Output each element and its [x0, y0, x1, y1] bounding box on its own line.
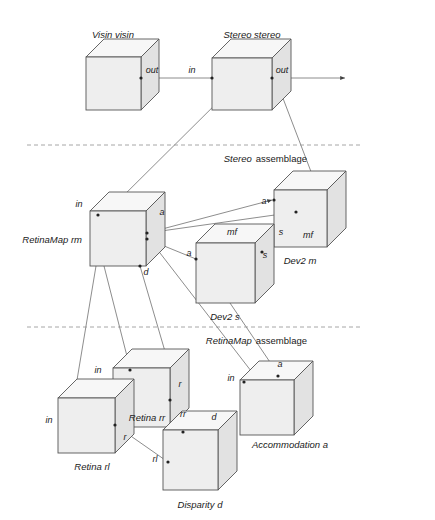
diagram-canvas: StereoassemblageRetinaMapassemblage Visi… — [0, 0, 435, 520]
port-connector-dot — [166, 460, 169, 463]
port-label-stereo-out: out — [276, 65, 289, 75]
port-connector-dot — [294, 210, 297, 213]
port-connector-dot — [139, 76, 142, 79]
port-label-retinarr-in: in — [94, 365, 101, 375]
port-label-dev2s-a: a — [186, 248, 191, 258]
cube-front-face — [196, 243, 255, 303]
port-connector-dot — [194, 257, 197, 260]
port-label-retinamap-in: in — [75, 199, 82, 209]
port-label-dev2s-s: s — [263, 250, 268, 260]
assemblage-label-plain: assemblage — [256, 335, 307, 346]
connection-retinamap-to-retinarr — [104, 266, 130, 368]
port-label-dev2m-a: a — [261, 196, 266, 206]
cube-front-face — [240, 380, 294, 435]
cube-front-face — [274, 190, 327, 247]
cube-front-face — [212, 58, 272, 110]
diagram-svg: StereoassemblageRetinaMapassemblage Visi… — [0, 0, 435, 520]
assemblage-label-stereo-assemblage: Stereoassemblage — [224, 153, 307, 164]
assemblage-label-plain: assemblage — [256, 153, 307, 164]
port-connector-dot — [96, 213, 99, 216]
port-label-retinamap-d: d — [143, 267, 149, 277]
port-label-dev2s-mf: mf — [227, 227, 238, 237]
port-label-retinarl-in: in — [45, 415, 52, 425]
cube-front-face — [163, 430, 218, 490]
component-cube-disparity[interactable] — [163, 411, 237, 490]
component-label-dev2s: Dev2 s — [210, 311, 240, 322]
port-connector-dot — [145, 231, 148, 234]
port-label-retinamap-a: a — [159, 207, 164, 217]
cube-front-face — [58, 398, 115, 453]
cube-front-face — [86, 57, 141, 110]
port-connector-dot — [272, 198, 275, 201]
port-label-stereo-in: in — [188, 65, 195, 75]
port-connector-dot — [181, 430, 184, 433]
assemblage-label-retinamap-assemblage: RetinaMapassemblage — [206, 335, 307, 346]
component-label-retinarr: Retina rr — [129, 412, 166, 423]
port-connector-dot — [242, 380, 245, 383]
cube-front-face — [90, 211, 146, 266]
port-connector-dot — [276, 374, 279, 377]
component-label-retinarl: Retina rl — [74, 461, 110, 472]
port-label-retinarl-rl: rl — [153, 454, 159, 464]
port-label-dev2m-mf: mf — [303, 230, 314, 240]
component-cube-retinamap[interactable] — [90, 192, 165, 266]
port-connector-dot — [128, 368, 131, 371]
assemblage-label-italic: Stereo — [224, 153, 252, 164]
component-label-stereo: Stereo stereo — [223, 29, 280, 40]
assemblage-label-italic: RetinaMap — [206, 335, 252, 346]
port-label-visin-out: out — [146, 65, 159, 75]
port-label-accommodation-a: a — [277, 359, 282, 369]
port-connector-dot — [168, 398, 171, 401]
port-label-dev2m-s: s — [279, 227, 284, 237]
port-connector-dot — [138, 264, 141, 267]
component-label-visin: Visin visin — [92, 29, 134, 40]
component-label-dev2m: Dev2 m — [284, 255, 317, 266]
component-cube-accommodation[interactable] — [240, 361, 313, 435]
port-connector-dot — [270, 76, 273, 79]
component-label-accommodation: Accommodation a — [251, 439, 328, 450]
port-label-retinarr-rr: rr — [180, 409, 187, 419]
component-label-retinamap: RetinaMap rm — [22, 234, 82, 245]
port-connector-dot — [113, 423, 116, 426]
component-label-disparity: Disparity d — [178, 499, 224, 510]
port-connector-dot — [210, 76, 213, 79]
port-label-accommodation-in: in — [227, 373, 234, 383]
connection-retinamap-to-retinarl — [74, 266, 96, 398]
port-connector-dot — [145, 237, 148, 240]
